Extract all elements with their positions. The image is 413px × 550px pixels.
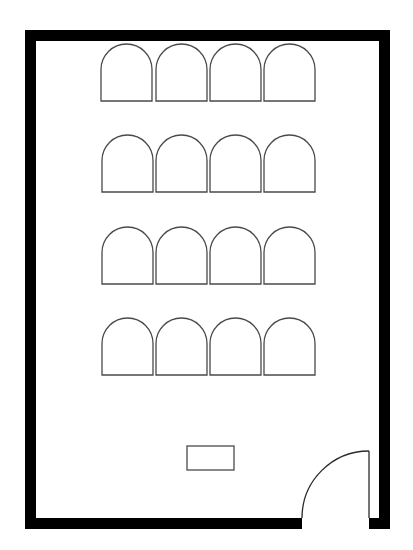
- chair-icon: [156, 44, 207, 101]
- top-wall: [25, 30, 390, 41]
- chair-icon: [264, 44, 315, 101]
- left-wall: [25, 30, 36, 529]
- chair-icon: [102, 318, 153, 375]
- door: [302, 451, 369, 518]
- chair-icon: [210, 135, 261, 192]
- chairs: [101, 44, 315, 375]
- chair-icon: [210, 318, 261, 375]
- right-wall: [379, 30, 390, 529]
- bottom-wall-right: [369, 518, 390, 529]
- door-swing-arc: [302, 451, 369, 518]
- bottom-wall-left: [25, 518, 302, 529]
- chair-icon: [156, 227, 207, 284]
- chair-icon: [102, 135, 153, 192]
- chair-icon: [264, 227, 315, 284]
- chair-icon: [156, 135, 207, 192]
- floor-plan: [0, 0, 413, 550]
- chair-icon: [210, 227, 261, 284]
- chair-icon: [264, 135, 315, 192]
- chair-icon: [210, 44, 261, 101]
- chair-icon: [264, 318, 315, 375]
- chair-icon: [156, 318, 207, 375]
- chair-icon: [101, 44, 152, 101]
- front-table: [187, 446, 234, 470]
- chair-icon: [102, 227, 153, 284]
